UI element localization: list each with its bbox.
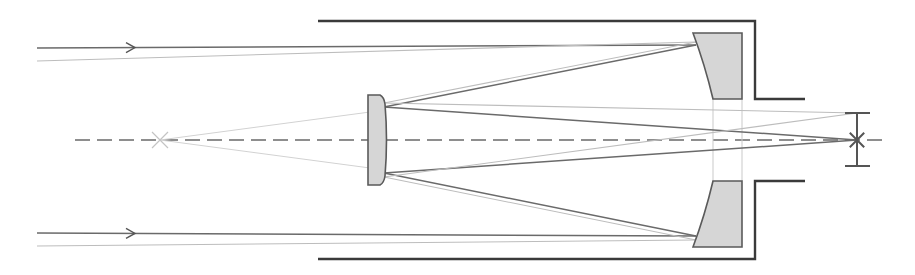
virtual-ray (160, 140, 370, 168)
primary-mirror-bottom (693, 181, 742, 247)
ray-light (37, 42, 696, 61)
ray-light (384, 42, 696, 103)
ray-dark (384, 45, 696, 107)
virtual-ray (160, 112, 370, 140)
ray-dark (384, 173, 696, 236)
ray-light (37, 240, 696, 246)
ray-light (384, 177, 696, 240)
secondary-mirror-body (368, 95, 387, 185)
secondary-mirror (368, 95, 387, 185)
primary-mirror-top (693, 33, 742, 99)
telescope-ray-diagram (0, 0, 915, 275)
